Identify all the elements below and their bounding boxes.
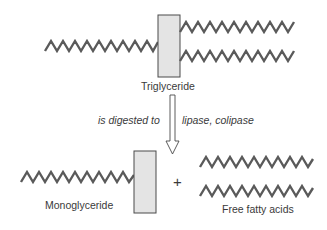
enzymes-label: lipase, colipase — [182, 114, 254, 126]
triglyceride-fatty-acid-chain-left — [45, 41, 158, 51]
process-label: is digested to — [98, 114, 160, 126]
free-fatty-acid-chain-bottom — [200, 186, 313, 196]
plus-sign: + — [173, 173, 182, 190]
free-fatty-acids-label: Free fatty acids — [222, 203, 294, 215]
triglyceride-glycerol-box — [158, 15, 180, 77]
triglyceride-label: Triglyceride — [141, 80, 195, 92]
triglyceride-fatty-acid-chain-bottom-right — [180, 51, 294, 61]
monoglyceride-fatty-acid-chain — [21, 172, 134, 182]
monoglyceride-label: Monoglyceride — [45, 199, 113, 211]
digestion-arrow — [166, 95, 179, 154]
digestion-diagram — [0, 0, 327, 230]
monoglyceride-glycerol-box — [134, 151, 156, 213]
triglyceride-fatty-acid-chain-top-right — [180, 22, 294, 32]
free-fatty-acid-chain-top — [200, 157, 313, 167]
